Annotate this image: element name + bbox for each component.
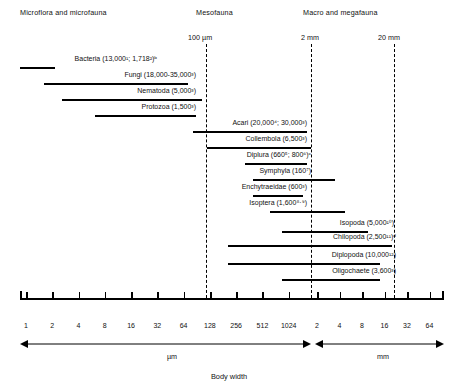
x-tick-label-um-64: 64 <box>180 322 188 329</box>
x-tick-um-1024 <box>289 292 291 299</box>
x-tick-um-64 <box>184 292 186 299</box>
reference-line-1 <box>206 44 207 298</box>
x-tick-label-mm-32: 32 <box>403 322 411 329</box>
taxon-label-enchytraeidae: Enchytraeidae (600³) <box>242 183 307 190</box>
range-bar-chilopoda <box>228 245 392 247</box>
x-tick-label-mm-8: 8 <box>360 322 364 329</box>
taxon-label-diplopoda: Diplopoda (10,000¹²) <box>332 251 396 258</box>
range-bar-nematoda <box>62 99 202 101</box>
mm-range-arrow <box>315 338 444 350</box>
x-tick-label-um-512: 512 <box>257 322 269 329</box>
x-tick-um-8 <box>105 292 107 299</box>
range-bar-diplura <box>245 163 307 165</box>
taxon-label-isopoda: Isopoda (5,000¹⁰) <box>340 219 394 227</box>
x-tick-um-32 <box>157 292 159 299</box>
taxon-label-bacteria: Bacteria (13,000¹; 1,718²)ᵇ <box>75 55 157 62</box>
x-tick-um-128 <box>210 292 212 299</box>
x-tick-um-2 <box>52 292 54 299</box>
range-bar-diplopoda <box>228 263 380 265</box>
x-tick-um-4 <box>79 292 81 299</box>
x-tick-mm-64 <box>430 292 432 299</box>
range-bar-symphyla <box>253 179 335 181</box>
x-axis-line <box>20 298 444 300</box>
x-tick-mm-2 <box>317 292 319 299</box>
taxon-label-isoptera: Isoptera (1,600⁸·⁹) <box>249 199 307 206</box>
taxon-label-chilopoda: Chilopoda (2,500¹¹)ᵈ <box>333 233 396 240</box>
unit-label-mm: mm <box>377 352 389 361</box>
x-tick-label-um-1024: 1024 <box>281 322 297 329</box>
x-tick-label-mm-4: 4 <box>338 322 342 329</box>
x-tick-um-16 <box>131 292 133 299</box>
range-bar-bacteria <box>20 67 55 69</box>
taxon-label-symphyla: Symphyla (160⁷) <box>259 167 311 174</box>
x-tick-label-um-128: 128 <box>204 322 216 329</box>
range-bar-fungi <box>44 83 188 85</box>
reference-label-1: 100 µm <box>188 33 212 42</box>
x-tick-mm-8 <box>362 292 364 299</box>
um-range-arrow <box>20 338 311 350</box>
taxon-label-collembola: Collembola (6,500³) <box>246 135 307 142</box>
taxon-label-fungi: Fungi (18,000-35,000³) <box>124 71 196 78</box>
x-tick-label-um-4: 4 <box>77 322 81 329</box>
x-tick-um-256 <box>236 292 238 299</box>
x-tick-label-um-256: 256 <box>230 322 242 329</box>
x-tick-label-mm-2: 2 <box>315 322 319 329</box>
reference-line-3 <box>394 44 395 298</box>
range-bar-oligochaete <box>282 279 380 281</box>
x-tick-label-um-16: 16 <box>127 322 135 329</box>
x-tick-um-512 <box>262 292 264 299</box>
x-axis-title: Body width <box>211 372 247 381</box>
x-tick-um-1 <box>26 292 28 299</box>
reference-label-3: 20 mm <box>378 33 400 42</box>
unit-label-um: µm <box>167 352 177 361</box>
x-tick-label-um-1: 1 <box>24 322 28 329</box>
figure-body-width-chart: Microflora and microfaunaMesofaunaMacro … <box>0 0 458 392</box>
x-tick-mm-4 <box>340 292 342 299</box>
x-tick-mm-32 <box>407 292 409 299</box>
range-bar-enchytraeidae <box>253 195 303 197</box>
x-tick-label-um-2: 2 <box>50 322 54 329</box>
x-tick-mm-16 <box>385 292 387 299</box>
group-header-3: Macro and megafauna <box>303 8 378 17</box>
range-bar-acari <box>193 131 307 133</box>
x-tick-label-mm-64: 64 <box>426 322 434 329</box>
group-header-2: Mesofauna <box>196 8 233 17</box>
axis-cap-right <box>442 291 444 299</box>
axis-cap-left <box>20 291 22 299</box>
x-tick-label-mm-16: 16 <box>381 322 389 329</box>
x-tick-label-um-32: 32 <box>153 322 161 329</box>
group-header-1: Microflora and microfauna <box>20 8 107 17</box>
range-bar-isoptera <box>270 211 345 213</box>
taxon-label-protozoa: Protozoa (1,500³) <box>142 103 196 110</box>
reference-label-2: 2 mm <box>301 33 319 42</box>
range-bar-protozoa <box>95 115 196 117</box>
taxon-label-diplura: Diplura (660⁵; 800⁶)ᶜ <box>247 151 311 158</box>
taxon-label-nematoda: Nematoda (5,000³) <box>137 87 196 94</box>
taxon-label-oligochaete: Oligochaete (3,600³) <box>332 267 396 274</box>
x-tick-label-um-8: 8 <box>103 322 107 329</box>
taxon-label-acari: Acari (20,000⁴; 30,000³) <box>232 119 307 126</box>
range-bar-collembola <box>207 147 311 149</box>
